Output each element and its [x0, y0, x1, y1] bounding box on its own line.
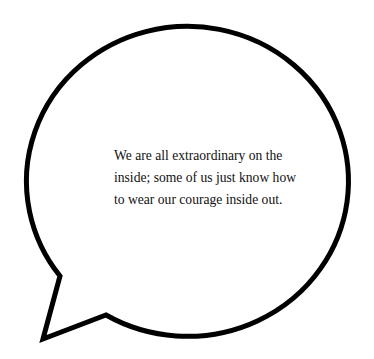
- speech-bubble-quote: We are all extraordinary on the inside; …: [114, 145, 266, 211]
- quote-line-1: We are all extraordinary on the: [114, 145, 266, 167]
- quote-line-2: inside; some of us just know how: [114, 167, 266, 189]
- quote-line-3: to wear our courage inside out.: [114, 189, 266, 211]
